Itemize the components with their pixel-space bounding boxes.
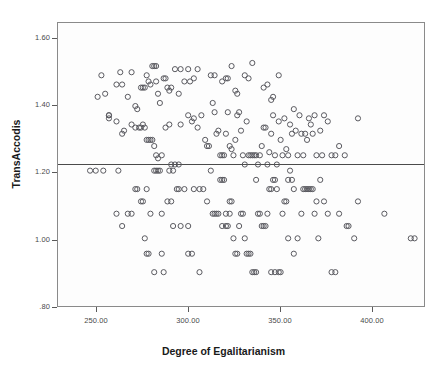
- x-tick-mark: [280, 307, 281, 312]
- scatter-point: [212, 73, 217, 78]
- scatter-point: [225, 110, 230, 115]
- scatter-point: [284, 147, 289, 152]
- scatter-point: [125, 94, 130, 99]
- scatter-point: [303, 131, 308, 136]
- scatter-point: [87, 168, 92, 173]
- scatter-point: [304, 137, 309, 142]
- scatter-point: [212, 110, 217, 115]
- scatter-point: [178, 67, 183, 72]
- scatter-point: [278, 137, 283, 142]
- scatter-point: [265, 211, 270, 216]
- scatter-point: [287, 122, 292, 127]
- scatter-point: [144, 187, 149, 192]
- scatter-point: [274, 187, 279, 192]
- scatter-point: [272, 270, 277, 275]
- scatter-point: [142, 236, 147, 241]
- x-tick-label-350: 350.00: [260, 316, 300, 325]
- scatter-point: [152, 143, 157, 148]
- scatter-point: [312, 113, 317, 118]
- scatter-point: [267, 150, 272, 155]
- scatter-points-layer: [58, 23, 424, 306]
- scatter-point: [297, 113, 302, 118]
- scatter-point: [99, 73, 104, 78]
- scatter-point: [254, 177, 259, 182]
- scatter-point: [318, 177, 323, 182]
- scatter-point: [120, 223, 125, 228]
- scatter-point: [342, 153, 347, 158]
- scatter-point: [116, 168, 121, 173]
- scatter-point: [189, 251, 194, 256]
- scatter-point: [155, 91, 160, 96]
- y-tick-label-0-80: .80: [12, 302, 50, 311]
- scatter-point: [250, 60, 255, 65]
- scatter-point: [167, 122, 172, 127]
- scatter-point: [220, 223, 225, 228]
- scatter-point: [333, 270, 338, 275]
- scatter-point: [282, 116, 287, 121]
- scatter-point: [186, 223, 191, 228]
- scatter-point: [178, 223, 183, 228]
- scatter-point: [308, 122, 313, 127]
- scatter-point: [321, 199, 326, 204]
- scatter-point: [259, 143, 264, 148]
- scatter-point: [314, 153, 319, 158]
- x-tick-mark: [188, 307, 189, 312]
- scatter-point: [316, 236, 321, 241]
- x-axis-title: Degree of Egalitarianism: [0, 345, 447, 357]
- scatter-point: [355, 199, 360, 204]
- scatter-point: [195, 125, 200, 130]
- scatter-point: [186, 67, 191, 72]
- scatter-point: [203, 137, 208, 142]
- scatter-point: [231, 153, 236, 158]
- x-tick-label-250: 250.00: [76, 316, 116, 325]
- scatter-point: [201, 187, 206, 192]
- scatter-point: [287, 168, 292, 173]
- scatter-point: [114, 211, 119, 216]
- scatter-point: [103, 91, 108, 96]
- scatter-point: [118, 70, 123, 75]
- scatter-point: [295, 153, 300, 158]
- x-tick-mark: [96, 307, 97, 312]
- scatter-point: [231, 236, 236, 241]
- x-tick-mark: [372, 307, 373, 312]
- scatter-point: [199, 113, 204, 118]
- scatter-point: [210, 100, 215, 105]
- scatter-point: [159, 153, 164, 158]
- scatter-point: [223, 131, 228, 136]
- scatter-point: [293, 128, 298, 133]
- scatter-point: [318, 128, 323, 133]
- scatter-point: [191, 76, 196, 81]
- scatter-point: [240, 153, 245, 158]
- scatter-point: [265, 82, 270, 87]
- scatter-point: [299, 211, 304, 216]
- scatter-point: [325, 119, 330, 124]
- scatter-point: [195, 67, 200, 72]
- scatter-point: [129, 70, 134, 75]
- y-axis-title: TransAccodis: [10, 94, 22, 214]
- scatter-point: [114, 119, 119, 124]
- scatter-point: [312, 211, 317, 216]
- plot-area: [57, 22, 425, 307]
- x-tick-label-300: 300.00: [168, 316, 208, 325]
- y-tick-mark: [52, 307, 57, 308]
- scatter-point: [178, 122, 183, 127]
- scatter-point: [172, 67, 177, 72]
- scatter-point: [301, 153, 306, 158]
- scatter-point: [291, 107, 296, 112]
- scatter-point: [412, 236, 417, 241]
- scatter-point: [233, 137, 238, 142]
- scatter-point: [337, 143, 342, 148]
- scatter-point: [333, 153, 338, 158]
- y-tick-label-1-60: 1.60: [12, 33, 50, 42]
- scatter-point: [276, 73, 281, 78]
- scatter-point: [310, 131, 315, 136]
- scatter-point: [120, 82, 125, 87]
- scatter-point: [170, 168, 175, 173]
- scatter-point: [161, 270, 166, 275]
- scatter-point: [276, 119, 281, 124]
- scatter-point: [208, 168, 213, 173]
- scatter-point: [246, 76, 251, 81]
- scatter-point: [176, 91, 181, 96]
- scatter-plot-figure: 1.60 1.40 1.20 1.00 .80 250.00 300.00 35…: [0, 0, 447, 373]
- scatter-point: [280, 153, 285, 158]
